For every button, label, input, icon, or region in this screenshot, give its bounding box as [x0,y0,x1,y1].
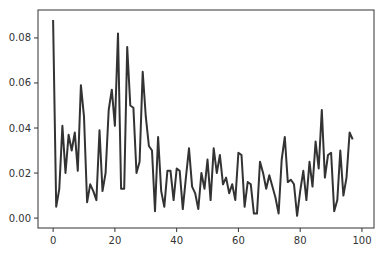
x-tick-label: 60 [232,235,245,246]
y-tick-label: 0.06 [9,77,31,88]
y-tick-label: 0.02 [9,168,31,179]
line-chart: 020406080100 0.000.020.040.060.08 [0,0,382,255]
x-tick-label: 100 [352,235,371,246]
y-tick-label: 0.04 [9,123,31,134]
x-tick-label: 0 [50,235,56,246]
data-line [53,20,353,216]
x-tick-label: 40 [170,235,183,246]
y-tick-label: 0.00 [9,213,31,224]
x-axis: 020406080100 [50,228,372,246]
x-tick-label: 80 [294,235,307,246]
y-tick-label: 0.08 [9,32,31,43]
x-tick-label: 20 [109,235,122,246]
y-axis: 0.000.020.040.060.08 [9,32,38,223]
